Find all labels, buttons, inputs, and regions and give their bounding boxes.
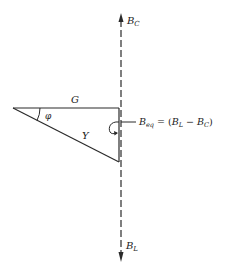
admittance-diagram: BC BL G Y φ Beq = (BL − BC)	[0, 0, 228, 268]
label-phi: φ	[45, 111, 52, 121]
label-g: G	[71, 94, 79, 105]
label-bl: BL	[125, 240, 138, 253]
label-bc: BC	[126, 15, 140, 28]
hypotenuse-y-line	[13, 108, 119, 162]
label-y: Y	[82, 130, 90, 141]
label-beq: Beq = (BL − BC)	[138, 116, 213, 129]
arrow-up-icon	[119, 13, 124, 22]
angle-arc	[37, 108, 40, 121]
arrow-down-icon	[119, 252, 124, 262]
